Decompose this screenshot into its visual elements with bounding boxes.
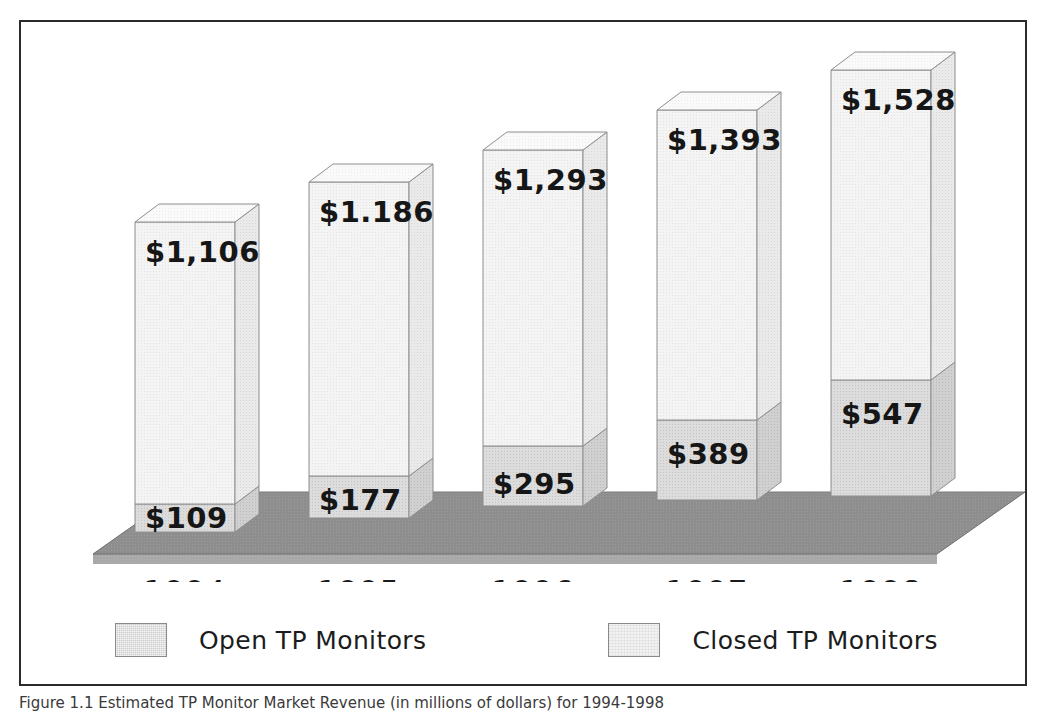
value-label-closed-1995: $1.186	[319, 195, 434, 229]
value-label-closed-1997: $1,393	[667, 123, 782, 157]
closed-swatch-icon	[608, 623, 660, 657]
x-tick-1998: 1998	[840, 573, 923, 582]
open-swatch-icon	[115, 623, 167, 657]
value-label-open-1996: $295	[493, 467, 576, 501]
x-tick-1996: 1996	[492, 573, 575, 582]
bar-group-1995[interactable]: $1.186 $177	[309, 164, 434, 518]
chart-legend: Open TP Monitors Closed TP Monitors	[21, 614, 1025, 666]
value-label-closed-1998: $1,528	[841, 83, 956, 117]
legend-label-closed: Closed TP Monitors	[692, 626, 937, 655]
figure-frame: $1,106 $109 $1.186 $177	[19, 20, 1027, 686]
value-label-open-1997: $389	[667, 437, 750, 471]
figure-caption: Figure 1.1 Estimated TP Monitor Market R…	[19, 694, 1029, 712]
bar-group-1997[interactable]: $1,393 $389	[657, 92, 782, 500]
bar-group-1996[interactable]: $1,293 $295	[483, 132, 608, 506]
legend-item-closed[interactable]: Closed TP Monitors	[608, 623, 937, 657]
legend-item-open[interactable]: Open TP Monitors	[115, 623, 426, 657]
chart-plot-area: $1,106 $109 $1.186 $177	[21, 22, 1025, 582]
value-label-closed-1996: $1,293	[493, 163, 608, 197]
value-label-closed-1994: $1,106	[145, 235, 260, 269]
x-axis-labels: 1994 1995 1996 1997 1998	[144, 573, 923, 582]
legend-label-open: Open TP Monitors	[199, 626, 426, 655]
bar-group-1998[interactable]: $1,528 $547	[831, 52, 956, 496]
bar-group-1994[interactable]: $1,106 $109	[135, 204, 260, 535]
bar-chart-svg: $1,106 $109 $1.186 $177	[21, 22, 1025, 582]
value-label-open-1994: $109	[145, 501, 228, 535]
value-label-open-1995: $177	[319, 483, 402, 517]
x-tick-1995: 1995	[318, 573, 401, 582]
value-label-open-1998: $547	[841, 397, 924, 431]
x-tick-1997: 1997	[666, 573, 749, 582]
x-tick-1994: 1994	[144, 573, 227, 582]
